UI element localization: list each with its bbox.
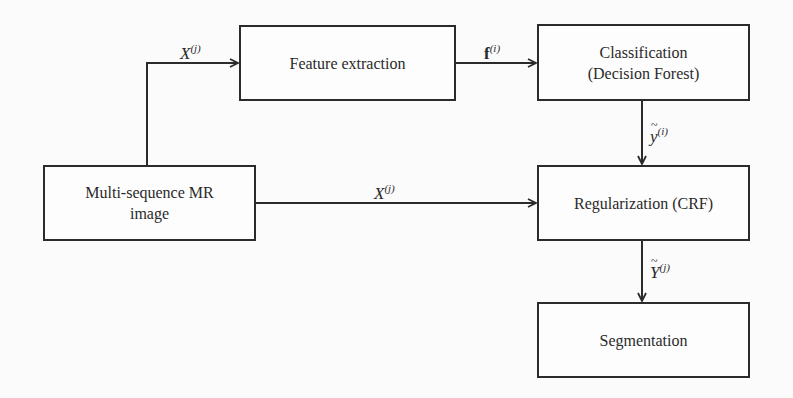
node-mr-image-line-2: image — [130, 203, 169, 224]
node-mr-image: Multi-sequence MR image — [43, 165, 256, 241]
node-classification-line-2: (Decision Forest) — [588, 63, 700, 84]
edge-label-base: Y — [650, 264, 659, 281]
edge-label-classification-to-regularization: y(i) — [650, 126, 668, 145]
node-mr-image-line-1: Multi-sequence MR — [85, 182, 213, 203]
node-segmentation-label: Segmentation — [600, 330, 688, 351]
edge-label-input-to-feature: X(j) — [180, 43, 201, 62]
node-regularization-label: Regularization (CRF) — [574, 193, 713, 214]
edge-label-sup: (i) — [490, 42, 500, 54]
node-classification-line-1: Classification — [600, 42, 688, 63]
edge-label-base: X — [374, 184, 384, 203]
node-regularization: Regularization (CRF) — [537, 165, 750, 241]
node-segmentation: Segmentation — [537, 302, 750, 378]
arrow-input-to-feature — [147, 63, 238, 165]
node-classification: Classification (Decision Forest) — [537, 24, 750, 101]
edge-label-input-to-regularization: X(j) — [374, 183, 395, 202]
edge-label-sup: (i) — [658, 125, 668, 137]
edge-label-sup: (j) — [659, 261, 669, 273]
edge-label-regularization-to-segmentation: Y(j) — [650, 262, 670, 281]
node-feature-extraction: Feature extraction — [239, 25, 456, 101]
node-feature-extraction-label: Feature extraction — [290, 53, 406, 74]
edge-label-feature-to-classification: f(i) — [484, 43, 500, 62]
edge-label-base: X — [180, 44, 190, 63]
edge-label-sup: (j) — [190, 42, 200, 54]
pipeline-diagram: Multi-sequence MR image Feature extracti… — [0, 0, 793, 398]
edge-label-base: y — [650, 128, 658, 145]
edge-label-sup: (j) — [384, 182, 394, 194]
